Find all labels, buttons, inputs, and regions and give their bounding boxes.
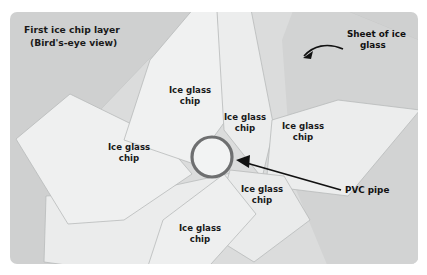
chip-label-right-line2: chip bbox=[293, 132, 313, 142]
page-title-line2: (Bird's-eye view) bbox=[30, 37, 117, 48]
chip-label-lower-right-line2: chip bbox=[252, 195, 272, 205]
chip-label-bottom-line1: Ice glass bbox=[179, 223, 221, 233]
sheet-of-ice-glass-label-line2: glass bbox=[360, 40, 386, 50]
page-title-line1: First ice chip layer bbox=[24, 24, 120, 35]
ice-chip-layer-figure: Sheet of ice glass PVC pipe First ice ch… bbox=[0, 0, 427, 275]
chip-label-lower-right-line1: Ice glass bbox=[241, 184, 283, 194]
chip-label-right-line1: Ice glass bbox=[282, 121, 324, 131]
pvc-pipe-label: PVC pipe bbox=[345, 185, 389, 195]
chip-label-center-right-line1: Ice glass bbox=[224, 112, 266, 122]
pvc-pipe-circle bbox=[192, 137, 232, 177]
chip-label-bottom-line2: chip bbox=[190, 234, 210, 244]
chip-label-top-center-line1: Ice glass bbox=[169, 85, 211, 95]
sheet-of-ice-glass-label-line1: Sheet of ice bbox=[347, 29, 406, 39]
chip-label-top-center-line2: chip bbox=[180, 96, 200, 106]
chip-label-left-line2: chip bbox=[119, 153, 139, 163]
diagram-canvas: Sheet of ice glass PVC pipe First ice ch… bbox=[0, 0, 427, 275]
chip-label-center-right-line2: chip bbox=[235, 123, 255, 133]
chip-label-left-line1: Ice glass bbox=[108, 142, 150, 152]
